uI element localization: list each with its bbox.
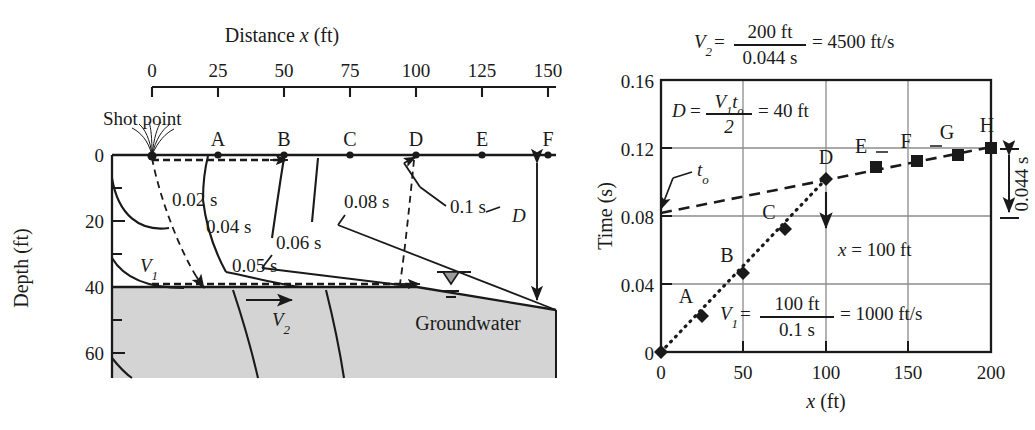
x-axis-title: x (ft) [805, 390, 845, 413]
data-point-G [952, 149, 964, 161]
depth-tick-0: 0 [95, 145, 105, 166]
equation-v2-numerator: 200 ft [748, 21, 794, 42]
wavefront-label-0.1s: 0.1 s [450, 196, 486, 217]
distance-tick-150: 150 [534, 60, 563, 81]
station-marker-A [214, 151, 221, 158]
station-marker-F [544, 151, 551, 158]
depth-tick-labels: 0 20 40 60 [85, 145, 104, 364]
depth-tick-60: 60 [85, 343, 104, 364]
y-tick-0.12: 0.12 [621, 139, 654, 160]
point-label-D: D [819, 146, 833, 168]
station-label-E: E [476, 128, 488, 150]
y-tick-0.04: 0.04 [621, 275, 655, 296]
point-label-C: C [762, 201, 775, 223]
data-point-H [985, 142, 997, 154]
wavefront-label-0.02s: 0.02 s [172, 189, 217, 210]
equation-d-lhs: D [671, 100, 686, 121]
station-label-F: F [542, 128, 553, 150]
point-label-G: G [940, 121, 954, 143]
distance-tick-labels: 0 25 50 75 100 125 150 [147, 60, 562, 81]
x100-label: x = 100 ft [837, 239, 912, 260]
delta-time-annotation: 0.044 s [1000, 149, 1032, 218]
distance-tick-75: 75 [341, 60, 360, 81]
equation-v1-numerator: 100 ft [775, 293, 821, 314]
depth-dimension-leader [486, 207, 500, 212]
delta-time-label: 0.044 s [1011, 157, 1032, 212]
station-label-B: B [277, 128, 290, 150]
equation-v2-denominator: 0.044 s [743, 47, 798, 68]
dashed-raypaths [152, 160, 417, 284]
equation-d-denominator: 2 [724, 116, 734, 137]
point-label-B: B [720, 244, 733, 266]
shot-point-label: Shot point [103, 108, 182, 129]
depth-tick-40: 40 [85, 277, 104, 298]
equation-v2: V2 = 200 ft 0.044 s = 4500 ft/s [694, 21, 895, 68]
equation-d-equals: = [690, 100, 701, 121]
distance-tick-100: 100 [402, 60, 431, 81]
d-station-raypath [400, 160, 414, 284]
distance-axis-ruler [152, 87, 556, 97]
station-marker-E [478, 151, 485, 158]
depth-tick-20: 20 [85, 211, 104, 232]
distance-axis-title: Distance x (ft) [225, 24, 339, 47]
dashed-ray-arrowheads [270, 160, 420, 284]
equation-v2-lhs: V2 [694, 31, 713, 59]
y-tick-0: 0 [645, 343, 655, 364]
distance-tick-50: 50 [275, 60, 294, 81]
station-marker-C [346, 151, 353, 158]
x-tick-labels: 0 50 100 150 200 [656, 362, 1005, 383]
y-axis-title: Time (s) [594, 182, 617, 250]
travel-time-panel: V2 = 200 ft 0.044 s = 4500 ft/s [594, 21, 1032, 413]
station-marker-B [280, 151, 287, 158]
x-tick-50: 50 [734, 362, 753, 383]
v1-raypath [152, 158, 204, 288]
equation-v1-result: = 1000 ft/s [840, 303, 923, 324]
wavefront-label-0.04s: 0.04 s [206, 216, 251, 237]
data-point-F [911, 155, 923, 167]
wavefront-label-0.08s: 0.08 s [344, 191, 389, 212]
wavefront-0.07s [312, 158, 318, 222]
station-label-A: A [211, 128, 226, 150]
figure-svg: Distance x (ft) 0 25 50 75 100 125 150 [0, 0, 1035, 430]
station-label-D: D [409, 128, 423, 150]
point-label-E: E [855, 135, 867, 157]
point-label-H: H [980, 114, 994, 136]
equation-v2-equals: = [714, 31, 725, 52]
equation-d-result: = 40 ft [758, 100, 810, 121]
depth-axis-title: Depth (ft) [10, 228, 33, 307]
wavefront-label-0.06s: 0.06 s [276, 232, 321, 253]
data-point-E [870, 161, 882, 173]
distance-tick-125: 125 [468, 60, 497, 81]
distance-tick-25: 25 [209, 60, 228, 81]
x-tick-200: 200 [977, 362, 1006, 383]
v1-label: V1 [140, 255, 158, 283]
equation-v2-result: = 4500 ft/s [812, 31, 895, 52]
groundwater-label: Groundwater [415, 312, 521, 334]
x-tick-150: 150 [894, 362, 923, 383]
cross-section-panel: Distance x (ft) 0 25 50 75 100 125 150 [10, 24, 562, 378]
y-tick-0.08: 0.08 [621, 207, 654, 228]
station-label-C: C [343, 128, 356, 150]
equation-v1-denominator: 0.1 s [779, 319, 815, 340]
wavefront-0.06s [272, 158, 284, 238]
x-tick-0: 0 [656, 362, 666, 383]
equation-v1-equals: = [740, 303, 751, 324]
depth-dimension-label: D [511, 205, 526, 226]
seismic-refraction-figure: Distance x (ft) 0 25 50 75 100 125 150 [0, 0, 1035, 430]
x-tick-100: 100 [812, 362, 841, 383]
point-label-A: A [679, 285, 694, 307]
y-tick-labels: 0.16 0.12 0.08 0.04 0 [621, 71, 655, 364]
point-label-F: F [900, 130, 911, 152]
y-tick-0.16: 0.16 [621, 71, 654, 92]
distance-tick-0: 0 [147, 60, 157, 81]
